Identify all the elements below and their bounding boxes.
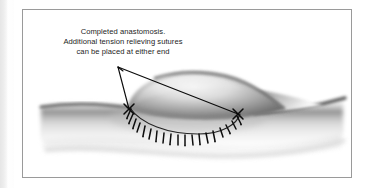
caption-line-1: Completed anastomosis. — [33, 27, 213, 37]
page-canvas: Completed anastomosis. Additional tensio… — [0, 0, 368, 188]
caption-line-2: Additional tension relieving sutures — [33, 37, 213, 47]
page-gutter-inner — [8, 0, 14, 188]
figure-frame: Completed anastomosis. Additional tensio… — [22, 9, 352, 178]
page-gutter-shadow — [0, 0, 8, 188]
figure-caption: Completed anastomosis. Additional tensio… — [33, 27, 213, 58]
caption-line-3: can be placed at either end — [33, 47, 213, 57]
